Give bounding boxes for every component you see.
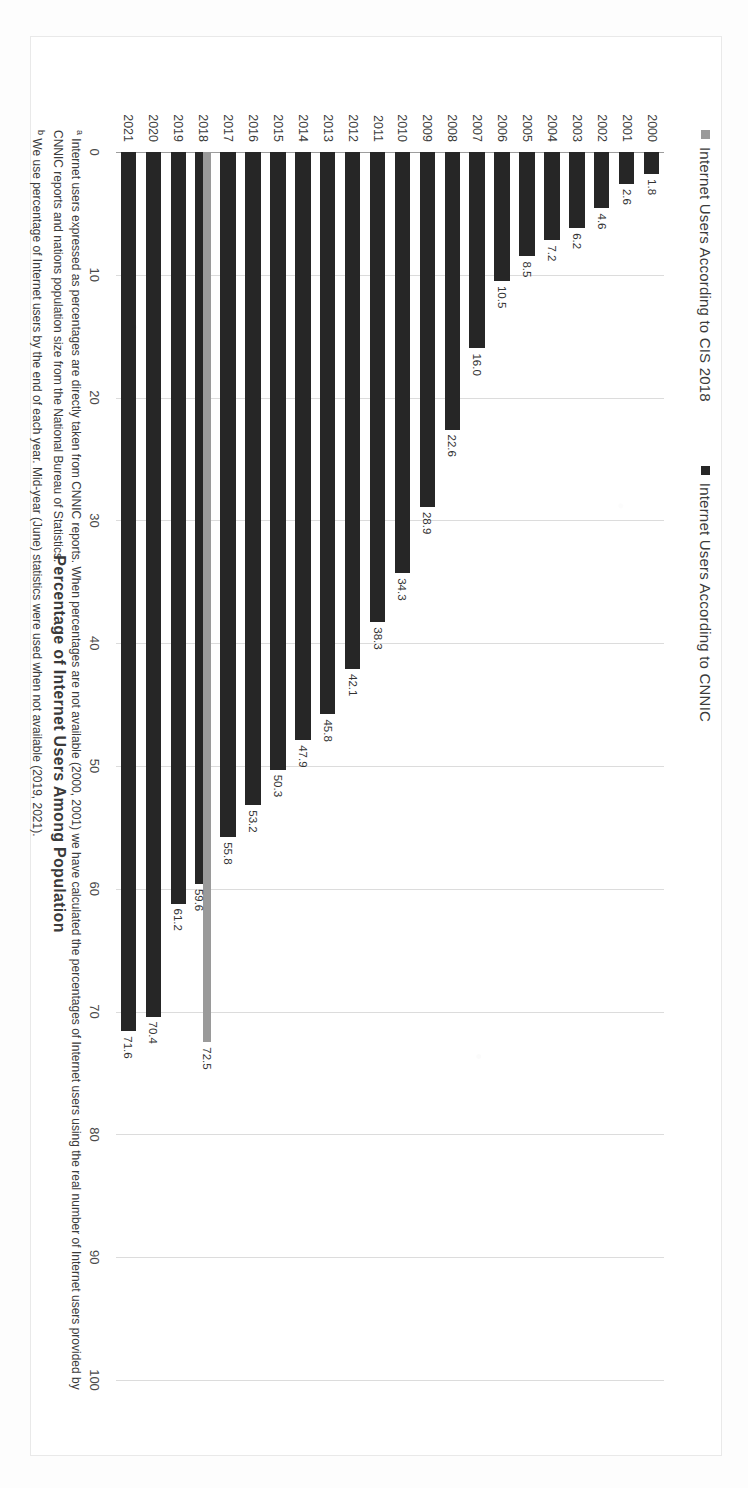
bar-fill bbox=[395, 152, 410, 573]
bar-value-label: 8.5 bbox=[521, 261, 533, 277]
category-label-2017: 2017 bbox=[221, 114, 235, 142]
bar-fill bbox=[519, 152, 534, 256]
category-label-2011: 2011 bbox=[371, 115, 385, 142]
legend-item-cis[interactable]: Internet Users According to CIS 2018 bbox=[697, 130, 714, 402]
bar-value-label: 42.1 bbox=[347, 674, 359, 696]
bar-fill bbox=[644, 152, 659, 174]
value-tick-90: 90 bbox=[87, 1250, 102, 1264]
bar-fill bbox=[420, 152, 435, 507]
bar-2013-cnnic[interactable]: 45.8 bbox=[320, 152, 335, 1380]
value-tick-50: 50 bbox=[87, 759, 102, 773]
category-label-2001: 2001 bbox=[620, 114, 634, 142]
bar-value-label: 59.6 bbox=[193, 889, 205, 911]
bar-fill bbox=[171, 152, 186, 904]
bar-value-label: 53.2 bbox=[247, 810, 259, 832]
value-tick-30: 30 bbox=[87, 513, 102, 527]
category-label-2002: 2002 bbox=[595, 114, 609, 142]
bar-2009-cnnic[interactable]: 28.9 bbox=[420, 152, 435, 1380]
bar-value-label: 34.3 bbox=[396, 578, 408, 600]
bar-value-label: 6.2 bbox=[571, 233, 583, 249]
category-label-2016: 2016 bbox=[246, 114, 260, 142]
gridline-100 bbox=[116, 1380, 664, 1381]
category-label-2008: 2008 bbox=[445, 114, 459, 142]
value-tick-0: 0 bbox=[87, 148, 102, 155]
bar-fill bbox=[320, 152, 335, 714]
bar-2020-cnnic[interactable]: 70.4 bbox=[146, 152, 161, 1380]
page-background: Internet Users According to CIS 2018 Int… bbox=[0, 0, 748, 1488]
rotated-chart-canvas: Internet Users According to CIS 2018 Int… bbox=[24, 34, 724, 1454]
footnote-a: a Internet users expressed as percentage… bbox=[49, 130, 86, 1414]
bar-2005-cnnic[interactable]: 8.5 bbox=[519, 152, 534, 1380]
bar-fill bbox=[146, 152, 161, 1017]
value-tick-60: 60 bbox=[87, 882, 102, 896]
bar-value-label: 47.9 bbox=[297, 745, 309, 767]
bar-value-label: 16.0 bbox=[471, 353, 483, 375]
bar-value-label: 55.8 bbox=[222, 842, 234, 864]
bar-2006-cnnic[interactable]: 10.5 bbox=[494, 152, 509, 1380]
plot-area: 1.82.64.66.27.28.510.516.022.628.934.338… bbox=[116, 152, 664, 1380]
bar-value-label: 22.6 bbox=[446, 435, 458, 457]
category-label-2021: 2021 bbox=[121, 114, 135, 142]
chart-figure: Internet Users According to CIS 2018 Int… bbox=[24, 34, 724, 1454]
legend-label-cnnic: Internet Users According to CNNIC bbox=[697, 483, 714, 722]
category-label-2005: 2005 bbox=[520, 114, 534, 142]
bar-value-label: 1.8 bbox=[646, 179, 658, 195]
bar-2019-cnnic[interactable]: 61.2 bbox=[171, 152, 186, 1380]
bar-fill bbox=[121, 152, 136, 1031]
footnote-b-text: We use percentage of Internet users by t… bbox=[30, 135, 44, 837]
bar-fill bbox=[469, 152, 484, 348]
bar-2016-cnnic[interactable]: 53.2 bbox=[245, 152, 260, 1380]
bar-fill bbox=[345, 152, 360, 669]
category-label-2019: 2019 bbox=[171, 114, 185, 142]
bar-value-label: 50.3 bbox=[272, 775, 284, 797]
bar-2002-cnnic[interactable]: 4.6 bbox=[594, 152, 609, 1380]
legend-item-cnnic[interactable]: Internet Users According to CNNIC bbox=[697, 466, 714, 722]
category-label-2015: 2015 bbox=[271, 114, 285, 142]
bar-2008-cnnic[interactable]: 22.6 bbox=[445, 152, 460, 1380]
bar-2007-cnnic[interactable]: 16.0 bbox=[469, 152, 484, 1380]
bar-2021-cnnic[interactable]: 71.6 bbox=[121, 152, 136, 1380]
bar-value-label: 71.6 bbox=[122, 1036, 134, 1058]
bar-2001-cnnic[interactable]: 2.6 bbox=[619, 152, 634, 1380]
footnote-a-text: Internet users expressed as percentages … bbox=[51, 130, 83, 1390]
category-label-2009: 2009 bbox=[420, 114, 434, 142]
bar-value-label: 4.6 bbox=[596, 213, 608, 229]
bar-fill bbox=[445, 152, 460, 430]
bar-2015-cnnic[interactable]: 50.3 bbox=[270, 152, 285, 1380]
bar-2004-cnnic[interactable]: 7.2 bbox=[544, 152, 559, 1380]
value-tick-70: 70 bbox=[87, 1004, 102, 1018]
value-tick-10: 10 bbox=[87, 268, 102, 282]
value-tick-40: 40 bbox=[87, 636, 102, 650]
bar-2014-cnnic[interactable]: 47.9 bbox=[295, 152, 310, 1380]
bar-value-label: 10.5 bbox=[496, 286, 508, 308]
bar-value-label: 2.6 bbox=[621, 189, 633, 205]
bar-fill bbox=[195, 152, 203, 884]
bar-2018-cis[interactable]: 72.5 bbox=[203, 152, 211, 1380]
bar-value-label: 7.2 bbox=[546, 245, 558, 261]
bar-2000-cnnic[interactable]: 1.8 bbox=[644, 152, 659, 1380]
bar-value-label: 70.4 bbox=[147, 1022, 159, 1044]
bar-fill bbox=[245, 152, 260, 805]
bar-2011-cnnic[interactable]: 38.3 bbox=[370, 152, 385, 1380]
bar-2017-cnnic[interactable]: 55.8 bbox=[220, 152, 235, 1380]
category-label-2010: 2010 bbox=[395, 114, 409, 142]
bar-fill bbox=[494, 152, 509, 281]
legend-swatch-cis bbox=[701, 130, 710, 139]
legend-label-cis: Internet Users According to CIS 2018 bbox=[697, 147, 714, 402]
category-label-2003: 2003 bbox=[570, 114, 584, 142]
bar-fill bbox=[544, 152, 559, 240]
category-label-2004: 2004 bbox=[545, 114, 559, 142]
bar-value-label: 28.9 bbox=[421, 512, 433, 534]
category-label-2020: 2020 bbox=[146, 114, 160, 142]
bar-2018-cnnic[interactable]: 59.6 bbox=[195, 152, 203, 1380]
category-label-2014: 2014 bbox=[296, 114, 310, 142]
bar-fill bbox=[370, 152, 385, 622]
footnote-b: b We use percentage of Internet users by… bbox=[28, 130, 47, 1414]
bar-value-label: 38.3 bbox=[372, 627, 384, 649]
bar-2012-cnnic[interactable]: 42.1 bbox=[345, 152, 360, 1380]
bar-2003-cnnic[interactable]: 6.2 bbox=[569, 152, 584, 1380]
legend-swatch-cnnic bbox=[701, 466, 710, 475]
category-label-2007: 2007 bbox=[470, 114, 484, 142]
chart-footnotes: a Internet users expressed as percentage… bbox=[26, 130, 86, 1414]
bar-2010-cnnic[interactable]: 34.3 bbox=[395, 152, 410, 1380]
